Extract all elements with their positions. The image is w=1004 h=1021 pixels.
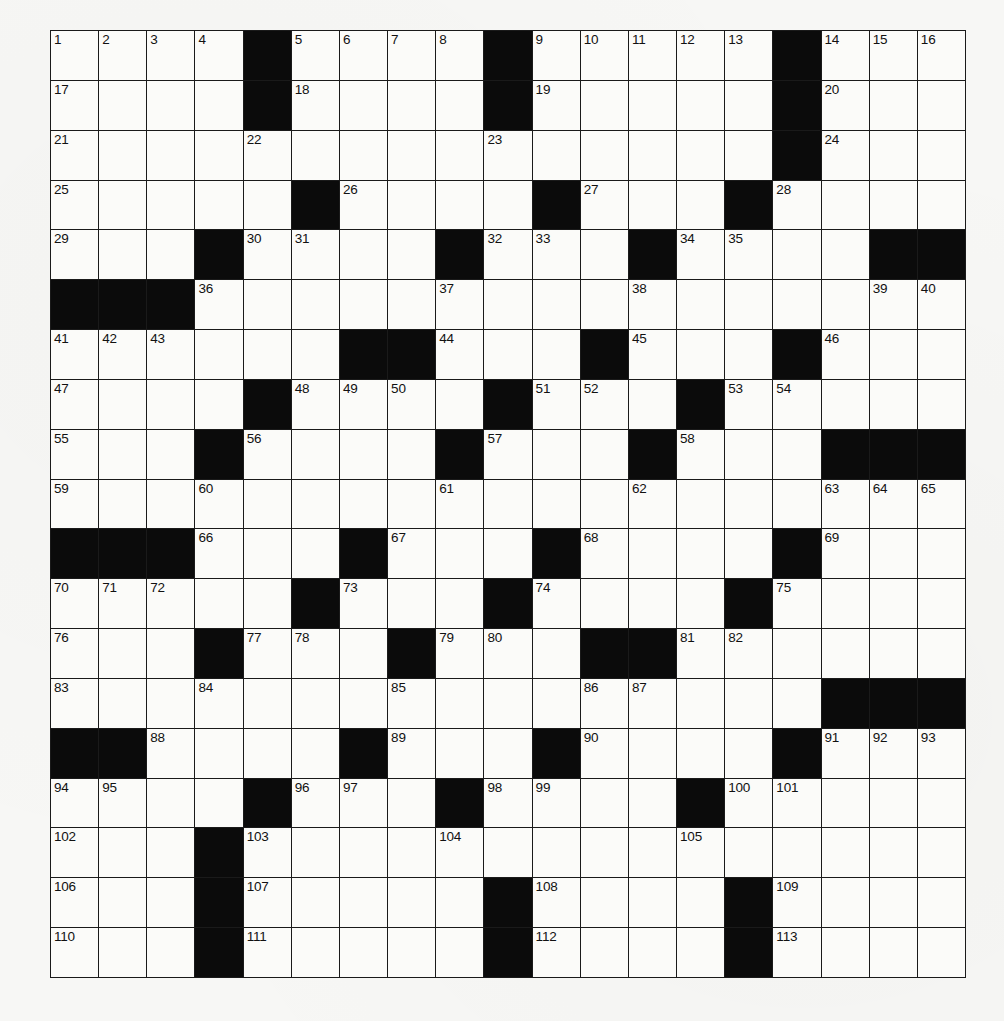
grid-cell[interactable] (918, 928, 965, 977)
grid-cell[interactable]: 24 (822, 131, 869, 180)
grid-cell[interactable]: 103 (244, 828, 291, 877)
grid-cell[interactable] (388, 430, 435, 479)
grid-cell[interactable]: 41 (51, 330, 98, 379)
grid-cell[interactable] (292, 480, 339, 529)
grid-cell[interactable] (725, 280, 772, 329)
grid-cell[interactable]: 84 (195, 679, 242, 728)
grid-cell[interactable] (484, 529, 531, 578)
grid-cell[interactable]: 105 (677, 828, 724, 877)
grid-cell[interactable] (99, 430, 146, 479)
grid-cell[interactable] (388, 81, 435, 130)
grid-cell[interactable] (870, 131, 917, 180)
grid-cell[interactable] (533, 430, 580, 479)
grid-cell[interactable]: 44 (436, 330, 483, 379)
grid-cell[interactable]: 15 (870, 31, 917, 80)
grid-cell[interactable] (99, 230, 146, 279)
grid-cell[interactable] (147, 230, 194, 279)
grid-cell[interactable]: 79 (436, 629, 483, 678)
grid-cell[interactable] (340, 480, 387, 529)
grid-cell[interactable] (436, 928, 483, 977)
grid-cell[interactable] (629, 779, 676, 828)
grid-cell[interactable]: 62 (629, 480, 676, 529)
grid-cell[interactable] (629, 529, 676, 578)
grid-cell[interactable] (99, 928, 146, 977)
grid-cell[interactable]: 8 (436, 31, 483, 80)
grid-cell[interactable]: 12 (677, 31, 724, 80)
grid-cell[interactable]: 40 (918, 280, 965, 329)
grid-cell[interactable] (436, 181, 483, 230)
grid-cell[interactable] (147, 779, 194, 828)
grid-cell[interactable] (822, 779, 869, 828)
grid-cell[interactable]: 59 (51, 480, 98, 529)
grid-cell[interactable]: 2 (99, 31, 146, 80)
grid-cell[interactable] (581, 828, 628, 877)
grid-cell[interactable] (822, 380, 869, 429)
grid-cell[interactable] (436, 529, 483, 578)
grid-cell[interactable]: 39 (870, 280, 917, 329)
grid-cell[interactable] (484, 480, 531, 529)
grid-cell[interactable] (822, 928, 869, 977)
grid-cell[interactable]: 73 (340, 579, 387, 628)
grid-cell[interactable]: 87 (629, 679, 676, 728)
grid-cell[interactable] (340, 230, 387, 279)
grid-cell[interactable] (822, 181, 869, 230)
grid-cell[interactable] (773, 280, 820, 329)
grid-cell[interactable] (244, 480, 291, 529)
grid-cell[interactable] (677, 480, 724, 529)
grid-cell[interactable]: 45 (629, 330, 676, 379)
grid-cell[interactable] (822, 230, 869, 279)
grid-cell[interactable]: 109 (773, 878, 820, 927)
grid-cell[interactable] (388, 579, 435, 628)
grid-cell[interactable]: 76 (51, 629, 98, 678)
grid-cell[interactable] (677, 330, 724, 379)
grid-cell[interactable]: 94 (51, 779, 98, 828)
grid-cell[interactable] (918, 330, 965, 379)
grid-cell[interactable]: 48 (292, 380, 339, 429)
grid-cell[interactable] (629, 828, 676, 877)
grid-cell[interactable] (533, 330, 580, 379)
grid-cell[interactable] (822, 878, 869, 927)
grid-cell[interactable] (436, 81, 483, 130)
grid-cell[interactable]: 14 (822, 31, 869, 80)
grid-cell[interactable] (870, 779, 917, 828)
grid-cell[interactable] (292, 131, 339, 180)
grid-cell[interactable]: 21 (51, 131, 98, 180)
grid-cell[interactable] (292, 529, 339, 578)
grid-cell[interactable]: 90 (581, 729, 628, 778)
grid-cell[interactable]: 77 (244, 629, 291, 678)
grid-cell[interactable]: 107 (244, 878, 291, 927)
grid-cell[interactable]: 63 (822, 480, 869, 529)
grid-cell[interactable] (918, 629, 965, 678)
grid-cell[interactable]: 4 (195, 31, 242, 80)
grid-cell[interactable] (870, 529, 917, 578)
grid-cell[interactable] (244, 330, 291, 379)
grid-cell[interactable] (195, 131, 242, 180)
grid-cell[interactable]: 100 (725, 779, 772, 828)
grid-cell[interactable] (195, 729, 242, 778)
grid-cell[interactable]: 85 (388, 679, 435, 728)
grid-cell[interactable] (870, 81, 917, 130)
grid-cell[interactable] (581, 430, 628, 479)
grid-cell[interactable] (292, 928, 339, 977)
grid-cell[interactable] (870, 629, 917, 678)
grid-cell[interactable] (822, 828, 869, 877)
grid-cell[interactable] (773, 679, 820, 728)
grid-cell[interactable] (340, 679, 387, 728)
grid-cell[interactable] (918, 380, 965, 429)
grid-cell[interactable]: 64 (870, 480, 917, 529)
grid-cell[interactable] (340, 81, 387, 130)
grid-cell[interactable]: 70 (51, 579, 98, 628)
grid-cell[interactable]: 78 (292, 629, 339, 678)
grid-cell[interactable] (484, 729, 531, 778)
grid-cell[interactable]: 31 (292, 230, 339, 279)
grid-cell[interactable] (581, 779, 628, 828)
grid-cell[interactable] (918, 579, 965, 628)
grid-cell[interactable] (677, 579, 724, 628)
grid-cell[interactable] (147, 181, 194, 230)
grid-cell[interactable] (195, 579, 242, 628)
grid-cell[interactable]: 80 (484, 629, 531, 678)
grid-cell[interactable] (870, 878, 917, 927)
grid-cell[interactable]: 34 (677, 230, 724, 279)
grid-cell[interactable]: 36 (195, 280, 242, 329)
grid-cell[interactable] (99, 679, 146, 728)
